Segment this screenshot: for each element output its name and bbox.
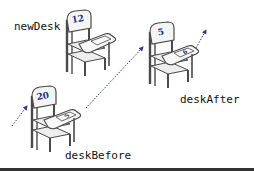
- label-deskBefore: deskBefore: [65, 150, 131, 161]
- arrow-incoming: [12, 106, 27, 126]
- bottom-rule: [0, 168, 254, 171]
- label-newDesk: newDesk: [14, 21, 60, 32]
- label-deskAfter: deskAfter: [180, 94, 240, 105]
- linked-desks-diagram: 12 5 6 20 5 newDesk deskAfter deskBefore: [0, 0, 254, 171]
- arrow-outgoing: [196, 30, 206, 48]
